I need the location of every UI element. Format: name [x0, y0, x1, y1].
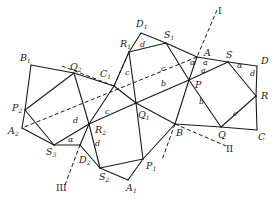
edge-B1-Q2	[31, 65, 74, 73]
edge-R1-S1	[129, 43, 166, 52]
geometry-figure: D1S1ASDRCQBPR1C1Q2B1P2A2S3D2R2S2A1P1Q1 d…	[0, 0, 275, 200]
edge-C-Q	[221, 127, 257, 130]
axis-label-I: I	[218, 6, 222, 16]
edge-P2-B1	[25, 65, 31, 110]
side-label: α	[190, 58, 196, 67]
dashed-axes	[22, 10, 226, 185]
vertex-label-P: P	[194, 79, 202, 90]
side-label: α	[237, 61, 243, 70]
vertex-label-S: S	[226, 49, 233, 60]
axis-B-down	[162, 124, 175, 160]
axis-label-III: III	[56, 183, 67, 193]
edge-R-Q	[221, 96, 256, 127]
vertex-label-S2: S2	[99, 171, 110, 183]
edge-A2-P2	[22, 110, 25, 128]
vertex-label-R1: R1	[119, 38, 131, 50]
side-label: a	[201, 66, 206, 75]
vertex-label-P2: P2	[11, 102, 22, 114]
side-label: b	[161, 79, 166, 88]
vertex-label-D1: D1	[135, 18, 147, 30]
vertex-label-Q2: Q2	[70, 61, 82, 73]
diagram-canvas: D1S1ASDRCQBPR1C1Q2B1P2A2S3D2R2S2A1P1Q1 d…	[0, 0, 275, 200]
edge-P-B	[175, 80, 189, 124]
vertex-label-C1: C1	[100, 68, 111, 80]
axis-label-II: II	[226, 144, 234, 154]
vertex-label-B1: B1	[19, 52, 31, 64]
side-label: c	[125, 68, 130, 77]
vertex-label-C: C	[258, 131, 266, 142]
vertex-label-A1: A1	[125, 182, 137, 194]
side-label: d	[250, 69, 255, 78]
axis-III	[65, 145, 80, 185]
vertex-label-P1: P1	[145, 160, 156, 172]
vertex-label-Q1: Q1	[138, 109, 150, 121]
side-label: c	[105, 107, 110, 116]
side-label: d	[95, 139, 100, 148]
edge-R-C	[256, 96, 257, 130]
side-label: d	[140, 40, 145, 49]
edge-D-R	[256, 66, 257, 96]
side-label: d	[73, 116, 78, 125]
vertex-label-A: A	[203, 47, 211, 58]
edge-B-P1	[143, 124, 175, 159]
vertex-label-B: B	[175, 127, 183, 138]
edge-A-S	[197, 57, 228, 62]
edge-S3-A2	[22, 128, 54, 145]
side-label: b	[199, 97, 204, 106]
edge-C1-Q1	[114, 86, 136, 103]
side-label: c	[233, 109, 238, 118]
edge-P2-S3	[25, 110, 54, 145]
vertex-label-R2: R2	[94, 124, 106, 136]
edge-S-D	[228, 62, 257, 66]
edge-R1-Q1	[129, 52, 136, 103]
edge-Q2-P2	[25, 73, 74, 110]
vertex-label-R: R	[260, 90, 268, 101]
solid-edges	[22, 33, 257, 180]
vertex-label-S1: S1	[164, 29, 174, 41]
vertex-label-Q: Q	[218, 129, 226, 140]
vertex-label-A2: A2	[7, 125, 19, 137]
vertex-label-D: D	[260, 55, 269, 66]
side-label: α	[68, 135, 74, 144]
vertex-label-S3: S3	[46, 146, 57, 158]
side-label: c	[161, 64, 166, 73]
edge-P-Q	[189, 80, 221, 127]
edge-S2-P1	[100, 159, 143, 168]
vertex-labels: D1S1ASDRCQBPR1C1Q2B1P2A2S3D2R2S2A1P1Q1	[7, 18, 269, 194]
